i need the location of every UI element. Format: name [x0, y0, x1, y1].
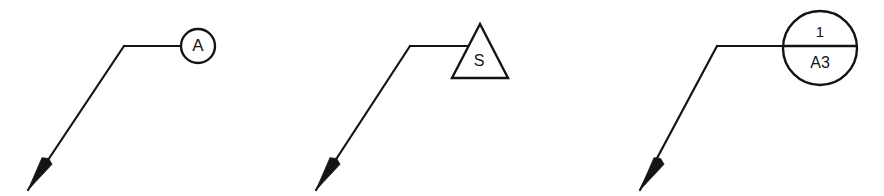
marker-label-bottom-text: A3: [810, 54, 830, 71]
marker-label-top-text: 1: [816, 23, 824, 40]
marker-label-text: S: [474, 52, 485, 69]
technical-drawing-canvas: Leader-line reference marker symbols A S…: [0, 0, 884, 196]
drawing-background: [0, 0, 884, 196]
marker-label-text: A: [192, 36, 204, 55]
